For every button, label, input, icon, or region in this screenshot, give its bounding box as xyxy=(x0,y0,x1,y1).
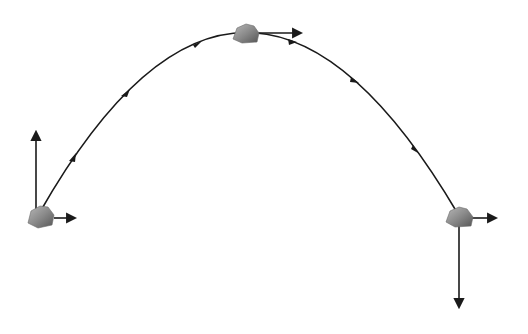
direction-arrow-icon xyxy=(121,89,130,97)
trajectory-path xyxy=(40,32,458,214)
projectile-diagram xyxy=(0,0,528,334)
launch-position xyxy=(28,132,75,228)
rock-icon xyxy=(28,206,54,228)
rock-icon xyxy=(233,24,259,43)
trajectory-direction-arrows xyxy=(69,39,418,162)
direction-arrow-icon xyxy=(350,77,359,83)
direction-arrow-icon xyxy=(69,153,76,162)
landing-position xyxy=(446,207,496,307)
rock-icon xyxy=(446,207,473,227)
direction-arrow-icon xyxy=(288,39,297,45)
